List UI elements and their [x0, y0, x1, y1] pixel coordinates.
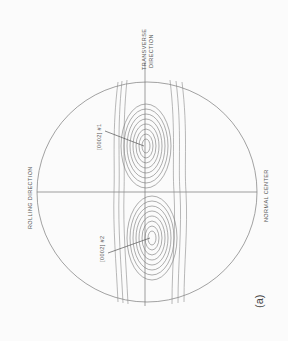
rolling-direction-label: ROLLING DIRECTION: [27, 166, 33, 229]
panel-label: (a): [253, 295, 265, 308]
pole-2-label: [0002] #2: [99, 235, 105, 262]
transverse-direction-label-line2: DIRECTION: [148, 34, 154, 68]
pole-1-leader: [105, 131, 144, 146]
pole-2-contours: [127, 196, 177, 280]
pole-1-label: [0002] #1: [96, 123, 102, 150]
pole-2-leader: [108, 238, 150, 253]
pole-figure: [0002] #1 [0002] #2 ROLLING DIRECTION TR…: [0, 0, 288, 341]
pole-1-contours: [121, 104, 171, 188]
transverse-direction-label-line1: TRANSVERSE: [141, 29, 147, 70]
normal-center-label: NORMAL CENTER: [263, 169, 269, 222]
